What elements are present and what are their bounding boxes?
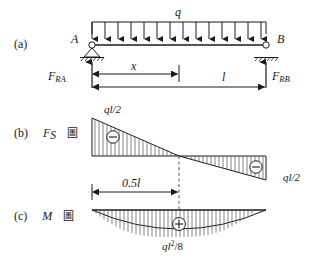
right-reaction-label: FRB (272, 70, 290, 82)
left-reaction-label: FRA (48, 70, 66, 82)
left-reaction-subscript: RA (55, 74, 66, 84)
shear-force-diagram (92, 118, 266, 212)
distributed-load-arrows (92, 22, 261, 39)
moment-caption-symbol: M (42, 209, 52, 223)
panel-tag-c: (c) (14, 209, 27, 223)
x-dimension-label: x (131, 60, 136, 72)
panel-tag-b: (b) (14, 126, 28, 140)
moment-caption-cjk: 圖 (63, 210, 74, 223)
shear-right-sign-marker (250, 161, 262, 173)
span-dimension-label: l (222, 71, 225, 83)
shear-left-triangle (92, 118, 179, 156)
moment-peak-main: ql (162, 240, 171, 252)
shear-caption-cjk: 圖 (67, 127, 78, 140)
shear-caption-subscript: S (50, 129, 56, 141)
panel-tag-b-group: (b) FS 圖 (14, 124, 78, 140)
node-label-a: A (71, 33, 78, 45)
figure-screenshot: (a) (b) FS 圖 (c) M 圖 A B q FRA FRB x l 0… (0, 0, 318, 261)
moment-peak-label: ql2/8 (162, 241, 183, 252)
node-label-b: B (277, 33, 284, 45)
half-span-dimension-label: 0.5l (122, 177, 140, 189)
distributed-load-label: q (175, 6, 181, 18)
panel-tag-a: (a) (14, 38, 27, 50)
moment-sign-marker (173, 218, 186, 231)
panel-tag-c-group: (c) M 圖 (14, 207, 74, 223)
dimension-lines (93, 65, 265, 87)
moment-peak-divisor: /8 (174, 240, 183, 252)
moment-peak-exponent: 2 (171, 239, 175, 248)
shear-left-peak-label: ql/2 (104, 104, 121, 115)
shear-left-sign-marker (107, 131, 119, 143)
right-reaction-subscript: RB (279, 74, 290, 84)
shear-right-peak-label: ql/2 (283, 172, 300, 183)
